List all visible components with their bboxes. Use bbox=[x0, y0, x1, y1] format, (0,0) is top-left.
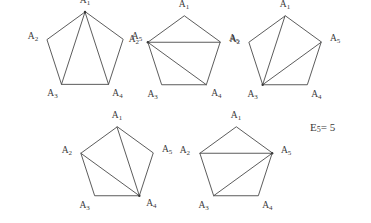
pentagons-group: A1A2A3A4A5A1A2A3A4A5A1A2A3A4A5A1A2A3A4A5… bbox=[28, 0, 341, 212]
pentagon-2-vertex-label-a3: A3 bbox=[147, 89, 158, 101]
pentagon-5-vertex-label-a3: A3 bbox=[198, 200, 209, 212]
pentagon-1-outline bbox=[47, 12, 123, 84]
pentagon-1-vertex-label-a4: A4 bbox=[112, 89, 123, 101]
pentagon-4-vertex-label-a4: A4 bbox=[146, 198, 157, 210]
pentagon-2-vertex-label-a1: A1 bbox=[179, 0, 190, 11]
pentagon-4-apex-dot bbox=[138, 195, 140, 197]
pentagon-3: A1A2A3A4A5 bbox=[230, 0, 341, 101]
pentagon-2-diagonal-1 bbox=[148, 42, 206, 84]
pentagon-1: A1A2A3A4A5 bbox=[28, 0, 143, 100]
pentagon-4-diagonal-2 bbox=[81, 153, 139, 195]
pentagon-2-vertex-label-a4: A4 bbox=[211, 88, 222, 100]
pentagon-5-vertex-label-a5: A5 bbox=[281, 145, 292, 157]
pentagon-2: A1A2A3A4A5 bbox=[129, 0, 240, 101]
triangulation-figure: A1A2A3A4A5A1A2A3A4A5A1A2A3A4A5A1A2A3A4A5… bbox=[0, 0, 371, 223]
pentagon-5-vertex-label-a4: A4 bbox=[262, 200, 273, 212]
pentagon-5-apex-dot bbox=[271, 152, 273, 154]
pentagon-3-apex-dot bbox=[261, 84, 263, 86]
pentagon-1-vertex-label-a2: A2 bbox=[28, 31, 39, 43]
pentagon-3-vertex-label-a4: A4 bbox=[311, 89, 322, 101]
pentagon-4-vertex-label-a5: A5 bbox=[162, 144, 173, 156]
pentagon-3-vertex-label-a3: A3 bbox=[247, 89, 258, 101]
pentagon-1-vertex-label-a3: A3 bbox=[47, 89, 58, 101]
pentagon-4-vertex-label-a1: A1 bbox=[112, 110, 123, 122]
pentagon-5-vertex-label-a2: A2 bbox=[180, 145, 191, 157]
pentagon-4-diagonal-1 bbox=[117, 127, 139, 196]
pentagon-2-apex-dot bbox=[147, 41, 149, 43]
pentagon-3-diagonal-2 bbox=[263, 42, 321, 84]
pentagon-1-vertex-label-a1: A1 bbox=[80, 0, 91, 7]
pentagon-3-vertex-label-a1: A1 bbox=[280, 0, 291, 11]
pentagon-4-vertex-label-a2: A2 bbox=[62, 145, 73, 157]
pentagon-3-vertex-label-a5: A5 bbox=[330, 33, 341, 45]
figure-canvas: A1A2A3A4A5A1A2A3A4A5A1A2A3A4A5A1A2A3A4A5… bbox=[0, 0, 371, 223]
pentagon-5: A1A2A3A4A5 bbox=[180, 110, 292, 211]
pentagon-5-vertex-label-a1: A1 bbox=[231, 110, 242, 122]
formula-label: E5= 5 bbox=[310, 121, 336, 135]
formula-group: E5= 5 bbox=[310, 121, 336, 135]
pentagon-1-diagonal-2 bbox=[85, 12, 109, 84]
pentagon-5-diagonal-2 bbox=[214, 153, 272, 195]
pentagon-1-diagonal-1 bbox=[61, 12, 85, 84]
pentagon-4-vertex-label-a3: A3 bbox=[79, 200, 90, 212]
pentagon-1-apex-dot bbox=[84, 11, 86, 13]
pentagon-4: A1A2A3A4A5 bbox=[62, 110, 173, 211]
pentagon-3-diagonal-1 bbox=[263, 16, 285, 85]
